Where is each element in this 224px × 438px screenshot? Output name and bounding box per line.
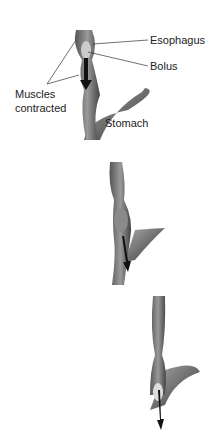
peristalsis-diagram [0, 0, 224, 438]
panel-3 [150, 296, 200, 430]
label-muscles-line1: Muscles [15, 88, 55, 100]
panel-2 [110, 162, 166, 285]
label-stomach: Stomach [105, 117, 148, 129]
label-bolus: Bolus [150, 60, 178, 72]
label-esophagus: Esophagus [150, 34, 205, 46]
label-muscles-line2: contracted [15, 102, 66, 114]
